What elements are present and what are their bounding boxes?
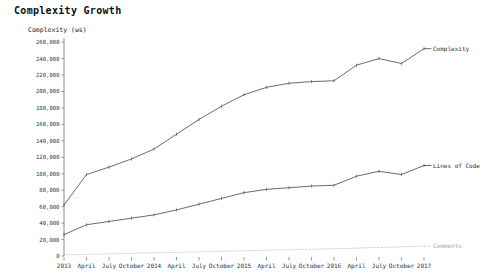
y-tick-label: 200,000 — [36, 88, 60, 94]
legend-label-lines-of-code: Lines of Code — [433, 162, 480, 169]
series-line-lines-of-code — [64, 166, 424, 235]
x-tick-label: October — [299, 262, 325, 269]
x-tick-label: July — [102, 262, 117, 270]
legend-label-complexity: Complexity — [433, 45, 470, 53]
x-tick-label: April — [257, 262, 275, 270]
y-tick-label: 80,000 — [39, 187, 59, 193]
series-line-complexity — [64, 49, 424, 205]
legend-label-comments: Comments — [433, 242, 462, 249]
y-tick-label: 120,000 — [36, 154, 60, 160]
y-tick-label: 60,000 — [39, 204, 59, 210]
inline-legend: ComplexityLines of CodeComments — [424, 45, 480, 249]
y-tick-label: 0 — [56, 253, 59, 259]
x-axis: 2013AprilJulyOctober2014AprilJulyOctober… — [57, 257, 432, 270]
y-tick-label: 160,000 — [36, 121, 60, 127]
x-tick-label: 2017 — [417, 262, 432, 269]
x-tick-label: 2014 — [147, 262, 162, 269]
y-tick-label: 20,000 — [39, 237, 59, 243]
y-tick-label: 180,000 — [36, 105, 60, 111]
x-tick-label: July — [372, 262, 387, 270]
x-tick-label: October — [389, 262, 415, 269]
x-tick-label: April — [347, 262, 365, 270]
complexity-growth-chart: Complexity Growth Complexity (ws) 020,00… — [0, 0, 499, 280]
x-tick-label: July — [192, 262, 207, 270]
x-tick-label: 2013 — [57, 262, 72, 269]
y-tick-label: 220,000 — [36, 72, 60, 78]
y-tick-label: 100,000 — [36, 171, 60, 177]
x-tick-label: October — [119, 262, 145, 269]
series-line-comments — [64, 246, 424, 255]
x-tick-label: 2016 — [327, 262, 342, 269]
y-axis: 020,00040,00060,00080,000100,000120,0001… — [36, 38, 64, 259]
x-tick-label: 2015 — [237, 262, 252, 269]
x-tick-label: October — [209, 262, 235, 269]
y-tick-label: 260,000 — [36, 39, 60, 45]
plot-area: 020,00040,00060,00080,000100,000120,0001… — [0, 0, 499, 280]
y-tick-label: 140,000 — [36, 138, 60, 144]
series-lines — [64, 47, 424, 255]
y-tick-label: 40,000 — [39, 220, 59, 226]
y-tick-label: 240,000 — [36, 56, 60, 62]
x-tick-label: April — [77, 262, 95, 270]
x-tick-label: July — [282, 262, 297, 270]
x-tick-label: April — [167, 262, 185, 270]
